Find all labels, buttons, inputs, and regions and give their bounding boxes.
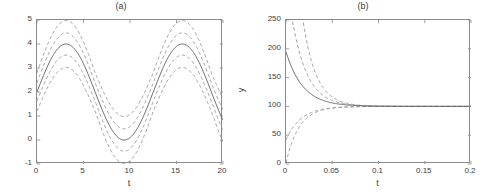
figure-canvas: (a) y t 05101520-1012345 (b) y t 00.050.… bbox=[0, 0, 484, 196]
subplot-b-y-tick: 100 bbox=[241, 100, 281, 109]
subplot-a-x-tick: 20 bbox=[202, 166, 242, 175]
subplot-a-curves bbox=[37, 20, 223, 164]
subplot-b-y-tick: 50 bbox=[241, 129, 281, 138]
subplot-b-x-tick: 0.2 bbox=[450, 166, 484, 175]
subplot-b-title: (b) bbox=[242, 1, 484, 11]
subplot-a-x-tick: 0 bbox=[16, 166, 56, 175]
subplot-a-y-tick: 3 bbox=[0, 62, 32, 71]
subplot-b-x-tick: 0.05 bbox=[311, 166, 351, 175]
subplot-b-y-tick: 200 bbox=[241, 43, 281, 52]
subplot-b-x-tick: 0.1 bbox=[358, 166, 398, 175]
subplot-b-y-axis-label: y bbox=[236, 60, 246, 120]
subplot-b-y-tick: 150 bbox=[241, 72, 281, 81]
subplot-a-y-tick: 0 bbox=[0, 134, 32, 143]
subplot-b-x-tick: 0 bbox=[265, 166, 305, 175]
subplot-b-y-tick: 250 bbox=[241, 14, 281, 23]
subplot-a-x-tick: 5 bbox=[63, 166, 103, 175]
subplot-a-plot-area bbox=[36, 19, 222, 163]
subplot-a-y-tick: -1 bbox=[0, 158, 32, 167]
subplot-a-y-tick: 1 bbox=[0, 110, 32, 119]
subplot-a-x-axis-label: t bbox=[99, 178, 159, 188]
subplot-a-y-tick: 2 bbox=[0, 86, 32, 95]
subplot-b-plot-area bbox=[285, 19, 470, 163]
subplot-b-curves bbox=[286, 20, 471, 164]
subplot-b-x-axis-label: t bbox=[348, 178, 408, 188]
subplot-a-x-tick: 15 bbox=[156, 166, 196, 175]
subplot-a: (a) y t 05101520-1012345 bbox=[0, 0, 242, 196]
subplot-b-y-tick: 0 bbox=[241, 158, 281, 167]
subplot-a-y-tick: 5 bbox=[0, 14, 32, 23]
subplot-a-y-tick: 4 bbox=[0, 38, 32, 47]
subplot-b-x-tick: 0.15 bbox=[404, 166, 444, 175]
subplot-a-title: (a) bbox=[0, 1, 242, 11]
subplot-a-x-tick: 10 bbox=[109, 166, 149, 175]
subplot-b: (b) y t 00.050.10.150.2050100150200250 bbox=[242, 0, 484, 196]
